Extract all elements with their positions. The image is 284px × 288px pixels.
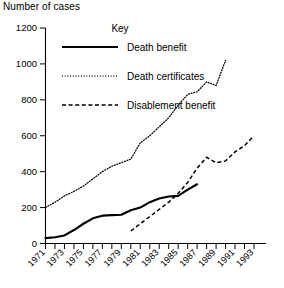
series-group (46, 60, 255, 238)
x-tick-label: 1993 (234, 247, 255, 268)
legend-title: Key (111, 23, 128, 34)
x-tick-label: 1985 (158, 247, 179, 268)
y-tick-label: 0 (32, 238, 37, 249)
x-tick-label: 1975 (64, 247, 85, 268)
y-tick-label: 200 (21, 202, 37, 213)
legend-label: Death certificates (127, 71, 204, 82)
y-tick-group: 020040060080010001200 (16, 22, 46, 249)
legend-label: Disablement benefit (127, 100, 216, 111)
chart-container: Number of cases 020040060080010001200 19… (0, 0, 284, 288)
y-tick-label: 1000 (16, 58, 37, 69)
x-tick-group: 1971197319751977197919811983198519871989… (26, 244, 256, 269)
series-line-dotted (46, 60, 226, 207)
series-line-dashed (131, 136, 254, 231)
x-tick-label: 1981 (120, 247, 141, 268)
y-axis-group: 020040060080010001200 (16, 22, 46, 249)
x-tick-label: 1973 (45, 247, 66, 268)
x-tick-label: 1971 (26, 247, 47, 268)
chart-plot: 020040060080010001200 197119731975197719… (0, 0, 284, 288)
x-tick-label: 1979 (101, 247, 122, 268)
x-tick-label: 1983 (139, 247, 160, 268)
x-tick-label: 1987 (177, 247, 198, 268)
y-tick-label: 600 (21, 130, 37, 141)
series-line-solid (46, 184, 198, 238)
y-tick-label: 1200 (16, 22, 37, 33)
legend-group: KeyDeath benefitDeath certificatesDisabl… (62, 23, 216, 111)
x-tick-label: 1977 (83, 247, 104, 268)
x-axis-group: 1971197319751977197919811983198519871989… (26, 244, 266, 269)
y-tick-label: 800 (21, 94, 37, 105)
x-tick-label: 1991 (215, 247, 236, 268)
y-tick-label: 400 (21, 166, 37, 177)
legend-label: Death benefit (127, 42, 187, 53)
x-tick-label: 1989 (196, 247, 217, 268)
